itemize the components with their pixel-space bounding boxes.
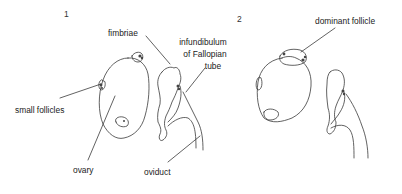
fimbriae-2-outline [327,70,345,134]
ovary-1-outline [99,58,149,138]
panel-number-1: 1 [64,9,69,19]
ovary-2-outline [257,57,311,122]
leader-fimbriae [146,36,170,64]
leader-small-follicles [60,84,101,98]
label-infundibulum-line1: infundibulum [170,37,236,47]
figure-ovary-follicle-diagram: 1 2 fimbriae infundibulum of Fallopian t… [0,0,402,194]
tube-1-inner [168,86,181,122]
label-ovary: ovary [73,165,93,175]
diagram-drawing [0,0,402,194]
small-follicle-top-1 [132,52,143,62]
small-follicle-left-2 [256,78,262,90]
label-dominant-follicle: dominant follicle [315,16,375,26]
small-follicle-bottom-2 [264,109,279,120]
leader-ovary [88,96,115,160]
oviduct-1-outer [168,117,196,148]
leader-infundibulum [186,68,205,92]
oviduct-2-inner [346,94,368,158]
fimbriae-1-outline [158,67,181,140]
label-infundibulum-line3: tube [180,61,246,71]
label-infundibulum-line2: of Fallopian [172,49,238,59]
label-fimbriae: fimbriae [108,28,138,38]
label-oviduct: oviduct [144,167,171,177]
leader-dominant-follicle [301,28,335,52]
leader-oviduct [168,136,200,162]
small-follicle-bottom-1 [115,117,128,127]
tube-2-inner [331,92,345,124]
panel-number-2: 2 [237,14,242,24]
label-small-follicles: small follicles [15,105,64,115]
